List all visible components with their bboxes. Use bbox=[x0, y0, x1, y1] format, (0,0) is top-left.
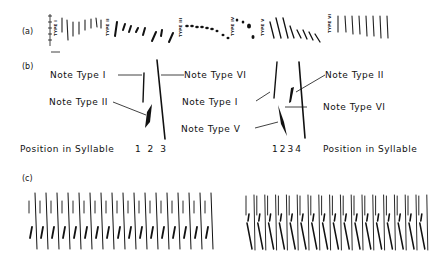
panel-c-sonogram bbox=[0, 0, 442, 261]
